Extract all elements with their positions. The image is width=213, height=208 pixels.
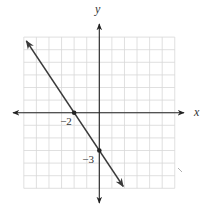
- y-axis-label: y: [94, 2, 101, 16]
- stray-mark: [178, 168, 182, 172]
- graph: −2−3xy: [0, 0, 213, 208]
- axes: [13, 24, 184, 203]
- label-x-intercept: −2: [60, 115, 72, 127]
- label-y-intercept: −3: [82, 153, 94, 165]
- data-point: [72, 110, 77, 115]
- data-point: [97, 148, 102, 153]
- labels: −2−3xy: [60, 2, 200, 165]
- x-axis-label: x: [193, 105, 200, 119]
